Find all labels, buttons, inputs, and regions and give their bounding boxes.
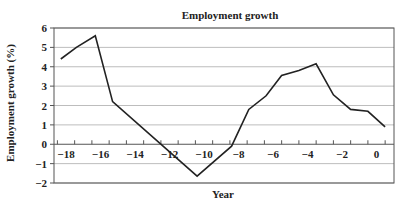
x-tick-label: −8 [233,148,245,160]
x-tick-label: −4 [302,148,314,160]
line-chart: 6543210−1−2 −18−16−14−12−10−8−6−4−20 [0,0,412,209]
y-tick-label: 1 [42,119,48,131]
x-tick-label: −14 [126,148,144,160]
y-tick-label: −2 [35,177,47,189]
y-axis-ticks: 6543210−1−2 [35,22,54,189]
y-tick-label: 5 [42,41,48,53]
x-tick-label: −18 [57,148,75,160]
y-tick-label: 6 [42,22,48,34]
y-tick-label: −1 [35,158,47,170]
x-axis-zero-line: −18−16−14−12−10−8−6−4−20 [57,140,385,160]
x-tick-label: −10 [195,148,213,160]
x-tick-label: 0 [374,148,380,160]
y-tick-label: 4 [42,61,48,73]
x-tick-label: −6 [267,148,279,160]
x-tick-label: −2 [336,148,348,160]
y-tick-label: 2 [42,100,48,112]
y-tick-label: 0 [42,138,48,150]
y-tick-label: 3 [42,80,48,92]
x-tick-label: −16 [92,148,110,160]
